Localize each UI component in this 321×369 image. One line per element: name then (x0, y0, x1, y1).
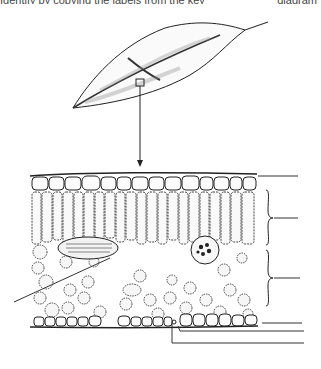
guard-cell (172, 320, 176, 324)
leaf-illustration (73, 22, 268, 167)
leaf-diagram (0, 0, 321, 369)
palisade-layer (32, 192, 254, 244)
lower-epidermis (30, 314, 258, 328)
spongy-layer (32, 245, 253, 320)
upper-epidermis (30, 173, 257, 190)
layer-braces (266, 190, 273, 306)
arrow-head-icon (137, 160, 143, 167)
